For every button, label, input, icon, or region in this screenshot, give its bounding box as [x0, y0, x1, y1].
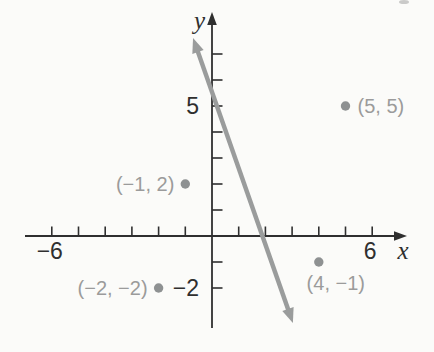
data-point [314, 257, 323, 266]
data-point-label: (−1, 2) [116, 173, 174, 195]
data-point-label: (5, 5) [358, 95, 405, 117]
coordinate-plane-figure: −665−2xy(5, 5)(−1, 2)(−2, −2)(4, −1) [0, 0, 434, 352]
data-point-label: (4, −1) [307, 272, 365, 294]
line-arrowhead-top [192, 38, 203, 54]
scan-speck [399, 0, 409, 4]
y-axis-arrowhead [207, 12, 217, 25]
x-tick-label: 6 [364, 238, 377, 264]
y-tick-label: −2 [173, 275, 199, 301]
graphed-line [196, 46, 290, 314]
line-arrowhead-bottom [282, 307, 293, 323]
y-axis-label: y [191, 7, 206, 34]
data-point-label: (−2, −2) [78, 277, 148, 299]
y-tick-label: 5 [186, 93, 199, 119]
data-point [154, 283, 163, 292]
x-tick-label: −6 [37, 238, 63, 264]
x-axis-label: x [396, 237, 408, 264]
data-point [341, 101, 350, 110]
graph-svg: −665−2xy(5, 5)(−1, 2)(−2, −2)(4, −1) [0, 0, 434, 352]
data-point [181, 179, 190, 188]
